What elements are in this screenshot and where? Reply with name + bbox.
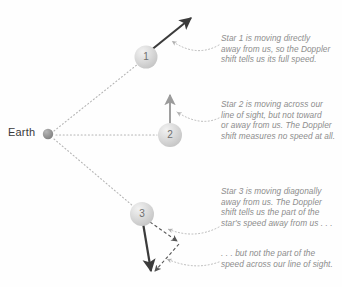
star-1-sphere — [135, 46, 158, 69]
line-of-sight-star-3 — [54, 139, 133, 206]
leader-line-callout-3 — [168, 227, 219, 234]
star-3-velocity-arrow — [143, 223, 151, 271]
callout-star-2-text: Star 2 is moving across our line of sigh… — [221, 99, 341, 141]
doppler-shift-diagram: Earth 1 2 3 Star 1 is moving directly aw… — [0, 0, 342, 287]
callout-star-3-radial-text: Star 3 is moving diagonally away from us… — [221, 186, 341, 228]
line-of-sight-star-1 — [54, 64, 138, 131]
lines-of-sight — [54, 64, 157, 206]
callout-leader-lines — [167, 41, 219, 266]
star-3-radial-component-arrow — [150, 222, 177, 241]
star-2-sphere — [158, 123, 182, 147]
leader-line-callout-1 — [172, 41, 219, 51]
callout-star-3-transverse-text: . . . but not the part of the speed acro… — [221, 248, 341, 269]
leader-line-callout-4 — [167, 259, 219, 266]
earth-dot — [43, 129, 53, 139]
star-3-transverse-component-arrow — [155, 244, 179, 271]
earth-label: Earth — [8, 126, 35, 138]
callout-star-1-text: Star 1 is moving directly away from us, … — [221, 33, 341, 65]
leader-line-callout-2 — [177, 112, 219, 121]
star-1-velocity-arrow — [150, 18, 191, 51]
star-3-sphere — [130, 202, 154, 226]
